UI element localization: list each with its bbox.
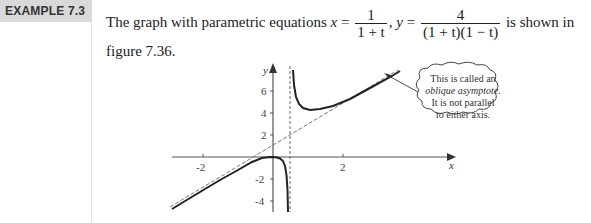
y-tick-6: 6: [261, 85, 267, 97]
y-axis-arrow-icon: [269, 63, 277, 73]
y-tick-neg4: -4: [255, 195, 265, 207]
y-tick-neg2: -2: [255, 173, 264, 185]
curve-left-branch: [172, 157, 288, 212]
callout-line4: to either axis.: [436, 109, 490, 120]
parametric-graph: x y -2 2 6 4 2 -2 -4 This is called an o…: [0, 0, 591, 223]
curve-right-branch: [293, 70, 400, 110]
x-tick-neg2: -2: [196, 161, 205, 173]
callout-line3: It is not parallel: [431, 97, 494, 108]
x-axis-label: x: [448, 159, 454, 171]
callout-pointer: [387, 75, 418, 92]
y-tick-4: 4: [261, 107, 267, 119]
y-axis-label: y: [262, 64, 268, 76]
callout-line1: This is called an: [430, 73, 495, 84]
callout-text: This is called an oblique asymptote. It …: [425, 73, 501, 120]
x-tick-2: 2: [340, 161, 346, 173]
callout-line2: oblique asymptote.: [425, 85, 501, 96]
y-tick-2: 2: [261, 129, 267, 141]
